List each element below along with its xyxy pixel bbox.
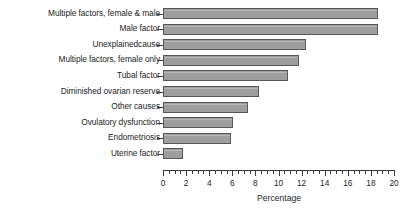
x-tick-minor bbox=[203, 171, 204, 174]
x-tick-minor bbox=[198, 171, 199, 174]
category-label: Endometriosis bbox=[108, 133, 160, 142]
category-axis-labels: Multiple factors, female & maleMale fact… bbox=[0, 0, 160, 170]
x-tick-label: 10 bbox=[274, 178, 283, 188]
x-tick-minor bbox=[221, 171, 222, 174]
x-tick-minor bbox=[273, 171, 274, 174]
x-tick-minor bbox=[238, 171, 239, 174]
x-tick-minor bbox=[336, 171, 337, 174]
bar-highlight bbox=[164, 135, 230, 136]
x-tick-major bbox=[394, 171, 395, 176]
x-tick-minor bbox=[319, 171, 320, 174]
x-tick-major bbox=[279, 171, 280, 176]
x-tick-label: 0 bbox=[161, 178, 166, 188]
bar-highlight bbox=[164, 150, 182, 151]
bar-highlight bbox=[164, 10, 377, 11]
x-tick-minor bbox=[227, 171, 228, 174]
x-tick-minor bbox=[290, 171, 291, 174]
x-tick-major bbox=[255, 171, 256, 176]
x-tick-minor bbox=[267, 171, 268, 174]
bar bbox=[163, 24, 378, 35]
bar bbox=[163, 55, 299, 66]
x-tick-major bbox=[302, 171, 303, 176]
x-tick-minor bbox=[244, 171, 245, 174]
x-tick-minor bbox=[354, 171, 355, 174]
bar-highlight bbox=[164, 119, 232, 120]
x-tick-minor bbox=[284, 171, 285, 174]
category-label: Male factor bbox=[120, 24, 161, 33]
x-tick-minor bbox=[169, 171, 170, 174]
x-tick-major bbox=[348, 171, 349, 176]
bar-highlight bbox=[164, 57, 298, 58]
x-axis-tick-labels: 02468101214161820 bbox=[0, 178, 410, 190]
x-tick-minor bbox=[342, 171, 343, 174]
x-tick-minor bbox=[175, 171, 176, 174]
x-axis-ticks bbox=[163, 171, 395, 176]
x-axis-title: Percentage bbox=[163, 193, 395, 203]
x-tick-major bbox=[163, 171, 164, 176]
x-tick-major bbox=[371, 171, 372, 176]
x-tick-label: 2 bbox=[184, 178, 189, 188]
bar bbox=[163, 133, 231, 144]
category-label: Multiple factors, female only bbox=[59, 55, 160, 64]
x-tick-label: 4 bbox=[207, 178, 212, 188]
plot-area bbox=[163, 8, 394, 170]
x-tick-label: 18 bbox=[366, 178, 375, 188]
category-label: Diminished ovarian reserve bbox=[61, 87, 160, 96]
bar-highlight bbox=[164, 72, 287, 73]
category-label: Other causes bbox=[111, 102, 160, 111]
bar bbox=[163, 148, 183, 159]
x-tick-label: 20 bbox=[389, 178, 398, 188]
x-tick-minor bbox=[180, 171, 181, 174]
category-label: Multiple factors, female & male bbox=[48, 9, 160, 18]
bar bbox=[163, 8, 378, 19]
x-tick-minor bbox=[261, 171, 262, 174]
x-tick-minor bbox=[359, 171, 360, 174]
bar bbox=[163, 102, 248, 113]
x-tick-minor bbox=[330, 171, 331, 174]
x-tick-label: 16 bbox=[343, 178, 352, 188]
bar-highlight bbox=[164, 26, 377, 27]
bar-highlight bbox=[164, 88, 258, 89]
x-tick-minor bbox=[296, 171, 297, 174]
x-tick-major bbox=[209, 171, 210, 176]
x-tick-minor bbox=[192, 171, 193, 174]
category-label: Ovulatory dysfunction bbox=[81, 118, 160, 127]
bar bbox=[163, 86, 259, 97]
x-tick-minor bbox=[215, 171, 216, 174]
category-label: Uterine factor bbox=[111, 149, 160, 158]
bar bbox=[163, 39, 306, 50]
x-tick-minor bbox=[388, 171, 389, 174]
x-tick-label: 6 bbox=[230, 178, 235, 188]
x-tick-minor bbox=[377, 171, 378, 174]
x-tick-minor bbox=[250, 171, 251, 174]
x-tick-label: 8 bbox=[253, 178, 258, 188]
bar-highlight bbox=[164, 104, 247, 105]
x-tick-minor bbox=[365, 171, 366, 174]
x-tick-major bbox=[325, 171, 326, 176]
x-tick-label: 12 bbox=[297, 178, 306, 188]
x-tick-minor bbox=[307, 171, 308, 174]
bar-highlight bbox=[164, 41, 305, 42]
bar bbox=[163, 70, 288, 81]
category-label: Unexplainedcause bbox=[93, 40, 160, 49]
bar bbox=[163, 117, 233, 128]
x-tick-major bbox=[232, 171, 233, 176]
x-tick-label: 14 bbox=[320, 178, 329, 188]
x-tick-major bbox=[186, 171, 187, 176]
category-label: Tubal factor bbox=[117, 71, 160, 80]
x-tick-minor bbox=[313, 171, 314, 174]
horizontal-bar-chart: Multiple factors, female & maleMale fact… bbox=[0, 0, 410, 217]
x-tick-minor bbox=[382, 171, 383, 174]
